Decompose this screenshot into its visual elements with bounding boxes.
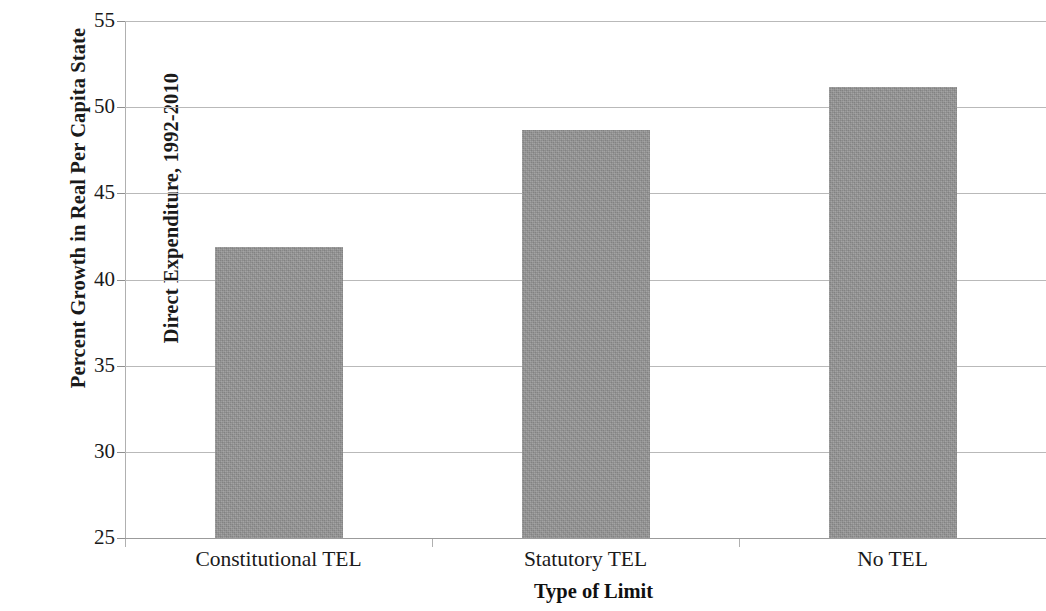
x-axis-tick-label: No TEL — [693, 546, 1046, 572]
y-axis-tick-label: 55 — [61, 10, 115, 31]
bar-chart-figure: Percent Growth in Real Per Capita State … — [0, 0, 1046, 611]
x-axis-title: Type of Limit — [440, 578, 747, 604]
y-axis-tick-label: 25 — [61, 527, 115, 548]
plot-area — [125, 21, 1046, 538]
bar — [215, 247, 343, 538]
gridline — [125, 538, 1046, 539]
y-axis-tick-label: 35 — [61, 355, 115, 376]
bar — [829, 87, 957, 539]
y-axis-tick-label: 40 — [61, 269, 115, 290]
gridline — [125, 21, 1046, 22]
y-axis-tick-labels: 25303540455055 — [55, 0, 115, 611]
y-axis-tick-label: 45 — [61, 182, 115, 203]
y-axis-tick-label: 50 — [61, 96, 115, 117]
bar — [522, 130, 650, 538]
y-axis-tick-label: 30 — [61, 441, 115, 462]
